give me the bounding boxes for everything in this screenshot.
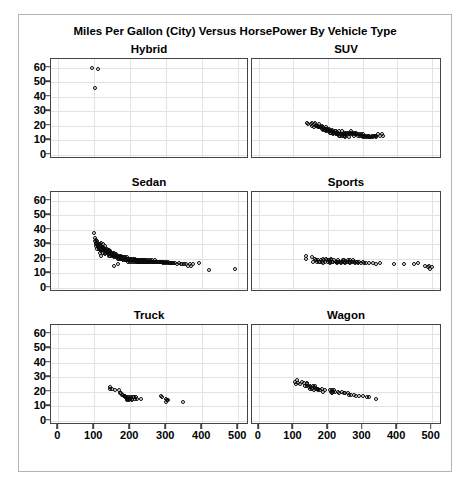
data-point [94, 244, 98, 248]
data-point [90, 66, 94, 70]
y-axis-tick-mark [45, 419, 50, 421]
data-point [416, 261, 420, 265]
gridline-horizontal [51, 348, 247, 349]
data-point [347, 135, 351, 139]
y-axis-tick-mark [45, 257, 50, 259]
gridline-horizontal [51, 215, 247, 216]
x-axis-tick-mark [361, 424, 363, 429]
gridline-vertical [259, 59, 260, 157]
gridline-horizontal [252, 82, 440, 83]
gridline-vertical [259, 192, 260, 290]
panel-title-hybrid: Hybrid [50, 43, 248, 55]
data-point [313, 257, 317, 261]
data-point [430, 265, 434, 269]
data-point [233, 267, 237, 271]
data-point [164, 400, 168, 404]
gridline-vertical [202, 192, 203, 290]
gridline-vertical [432, 59, 433, 157]
data-point [107, 254, 111, 258]
data-point [321, 261, 325, 265]
gridline-horizontal [51, 155, 247, 156]
x-axis-tick-mark [128, 424, 130, 429]
gridline-horizontal [51, 273, 247, 274]
y-axis-tick-mark [45, 228, 50, 230]
gridline-horizontal [252, 334, 440, 335]
gridline-horizontal [51, 97, 247, 98]
gridline-vertical [363, 192, 364, 290]
data-point [378, 261, 382, 265]
gridline-horizontal [51, 334, 247, 335]
data-point [93, 86, 97, 90]
plot-area-hybrid [50, 58, 248, 158]
gridline-horizontal [252, 377, 440, 378]
x-axis-tick-label: 500 [228, 430, 246, 441]
gridline-horizontal [252, 363, 440, 364]
x-axis-tick-label: 300 [156, 430, 174, 441]
x-axis-tick-mark [257, 424, 259, 429]
gridline-horizontal [51, 288, 247, 289]
gridline-vertical [130, 192, 131, 290]
data-point [324, 125, 328, 129]
gridline-vertical [166, 325, 167, 423]
data-point [197, 261, 201, 265]
data-point [181, 400, 185, 404]
plot-area-truck [50, 324, 248, 424]
data-point [312, 388, 316, 392]
x-axis-tick-label: 400 [192, 430, 210, 441]
gridline-vertical [130, 325, 131, 423]
data-point [308, 384, 312, 388]
data-point [317, 122, 321, 126]
gridline-horizontal [252, 230, 440, 231]
y-axis-tick-mark [45, 138, 50, 140]
data-point [348, 258, 352, 262]
data-point [323, 388, 327, 392]
gridline-vertical [259, 325, 260, 423]
data-point [361, 135, 365, 139]
panel-title-wagon: Wagon [251, 309, 441, 321]
gridline-vertical [58, 59, 59, 157]
gridline-horizontal [51, 68, 247, 69]
gridline-vertical [238, 192, 239, 290]
data-point [381, 134, 385, 138]
plot-area-sports [251, 191, 441, 291]
x-axis-tick-mark [430, 424, 432, 429]
gridline-horizontal [51, 126, 247, 127]
x-axis-tick-label: 0 [54, 430, 60, 441]
gridline-horizontal [51, 421, 247, 422]
x-axis-tick-label: 0 [255, 430, 261, 441]
data-point [337, 129, 341, 133]
y-axis-tick-mark [45, 199, 50, 201]
data-point [352, 134, 356, 138]
data-point [207, 268, 211, 272]
gridline-vertical [130, 59, 131, 157]
x-axis-tick-mark [236, 424, 238, 429]
x-axis-tick-label: 100 [84, 430, 102, 441]
gridline-vertical [432, 325, 433, 423]
plot-area-wagon [251, 324, 441, 424]
chart-title: Miles Per Gallon (City) Versus HorsePowe… [19, 25, 451, 37]
y-axis-tick-mark [45, 153, 50, 155]
gridline-vertical [293, 192, 294, 290]
panel-title-truck: Truck [50, 309, 248, 321]
gridline-horizontal [252, 201, 440, 202]
gridline-vertical [328, 59, 329, 157]
x-axis-tick-label: 400 [387, 430, 405, 441]
data-point [320, 124, 324, 128]
data-point [313, 121, 317, 125]
data-point [139, 397, 143, 401]
x-axis-tick-label: 100 [283, 430, 301, 441]
gridline-horizontal [252, 288, 440, 289]
gridline-horizontal [252, 68, 440, 69]
gridline-vertical [166, 192, 167, 290]
gridline-vertical [94, 59, 95, 157]
x-axis-tick-label: 500 [421, 430, 439, 441]
y-axis-tick-mark [45, 66, 50, 68]
x-axis-tick-mark [56, 424, 58, 429]
x-axis-tick-mark [200, 424, 202, 429]
gridline-horizontal [51, 230, 247, 231]
gridline-vertical [397, 192, 398, 290]
gridline-horizontal [252, 348, 440, 349]
data-point [130, 398, 134, 402]
gridline-horizontal [252, 111, 440, 112]
gridline-horizontal [51, 377, 247, 378]
